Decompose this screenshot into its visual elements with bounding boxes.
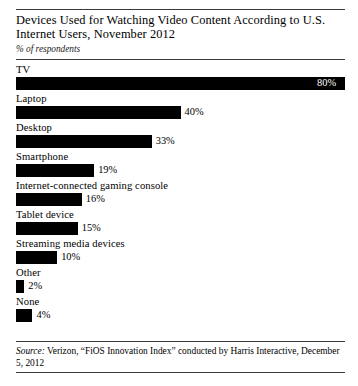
bar: [16, 77, 345, 90]
bar-row: None4%: [16, 295, 346, 324]
bar: [16, 164, 94, 177]
bar-track: 80%: [16, 77, 346, 90]
source-note: Source: Verizon, “FiOS Innovation Index”…: [16, 345, 346, 370]
bar-category-label: Tablet device: [16, 208, 346, 221]
bar-track: 33%: [16, 135, 346, 148]
bar-category-label: Other: [16, 266, 346, 279]
bar-category-label: None: [16, 295, 346, 308]
bar: [16, 309, 32, 322]
rule-above-source: [16, 341, 345, 342]
bar-track: 2%: [16, 280, 346, 293]
bar-row: Laptop40%: [16, 92, 346, 121]
bar-value-label: 80%: [317, 76, 336, 90]
page-title: Devices Used for Watching Video Content …: [16, 13, 346, 42]
bar-chart-plot: TV80%Laptop40%Desktop33%Smartphone19%Int…: [16, 63, 346, 324]
bar-category-label: Internet-connected gaming console: [16, 179, 346, 192]
bar-value-label: 16%: [86, 192, 105, 206]
rule-top: [16, 9, 345, 10]
bar-row: Internet-connected gaming console16%: [16, 179, 346, 208]
bar-value-label: 10%: [61, 250, 80, 264]
bar: [16, 222, 78, 235]
bar-value-label: 40%: [185, 105, 204, 119]
bar-track: 16%: [16, 193, 346, 206]
bar-category-label: TV: [16, 63, 346, 76]
bar-track: 15%: [16, 222, 346, 235]
bar: [16, 280, 24, 293]
bar-category-label: Streaming media devices: [16, 237, 346, 250]
bar-row: Streaming media devices10%: [16, 237, 346, 266]
rule-under-header: [16, 59, 345, 60]
bar: [16, 135, 152, 148]
bar-row: TV80%: [16, 63, 346, 92]
bar-row: Smartphone19%: [16, 150, 346, 179]
bar-track: 4%: [16, 309, 346, 322]
title-block: Devices Used for Watching Video Content …: [16, 13, 346, 55]
source-detail: Verizon, “FiOS Innovation Index” conduct…: [16, 346, 340, 368]
bar-value-label: 4%: [36, 308, 50, 322]
bar-category-label: Laptop: [16, 92, 346, 105]
bar-category-label: Smartphone: [16, 150, 346, 163]
bar: [16, 193, 82, 206]
bar-track: 19%: [16, 164, 346, 177]
bar-value-label: 2%: [28, 279, 42, 293]
bar-row: Other2%: [16, 266, 346, 295]
chart-subtitle: % of respondents: [16, 43, 346, 55]
rule-bottom: [16, 372, 345, 373]
bar-track: 10%: [16, 251, 346, 264]
bar-value-label: 15%: [82, 221, 101, 235]
bar: [16, 106, 181, 119]
source-label: Source:: [16, 346, 45, 356]
bar-row: Desktop33%: [16, 121, 346, 150]
bar-value-label: 19%: [98, 163, 117, 177]
bar: [16, 251, 57, 264]
bar-row: Tablet device15%: [16, 208, 346, 237]
chart-card: Devices Used for Watching Video Content …: [0, 0, 358, 386]
bar-value-label: 33%: [156, 134, 175, 148]
source-block: Source: Verizon, “FiOS Innovation Index”…: [16, 345, 346, 370]
bar-category-label: Desktop: [16, 121, 346, 134]
bar-track: 40%: [16, 106, 346, 119]
